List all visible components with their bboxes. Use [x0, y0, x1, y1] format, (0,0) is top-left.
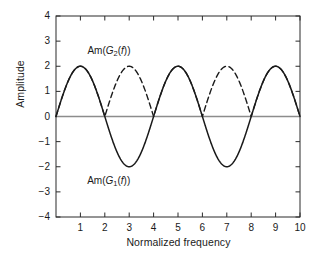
- amplitude-vs-normalized-frequency-chart: Amplitude Normalized frequency 43210−1−2…: [0, 0, 321, 264]
- annotation-am-g1: Am(G1(f)): [87, 175, 130, 187]
- curve-am-g2: [56, 66, 300, 116]
- annotation-am-g2: Am(G2(f)): [87, 45, 130, 57]
- plot-area: [0, 0, 321, 264]
